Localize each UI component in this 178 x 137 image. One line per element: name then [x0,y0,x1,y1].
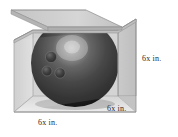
dimension-label-front-left: 6x in. [38,118,57,127]
dimension-label-right: 6x in. [142,54,161,63]
geometry-illustration-svg [0,0,178,137]
box-right-wall [118,19,136,112]
dimension-label-front-right: 6x in. [107,104,126,113]
box-lid-flap [11,10,122,31]
bowling-ball-in-box-figure: 6x in. 6x in. 6x in. [0,0,178,137]
